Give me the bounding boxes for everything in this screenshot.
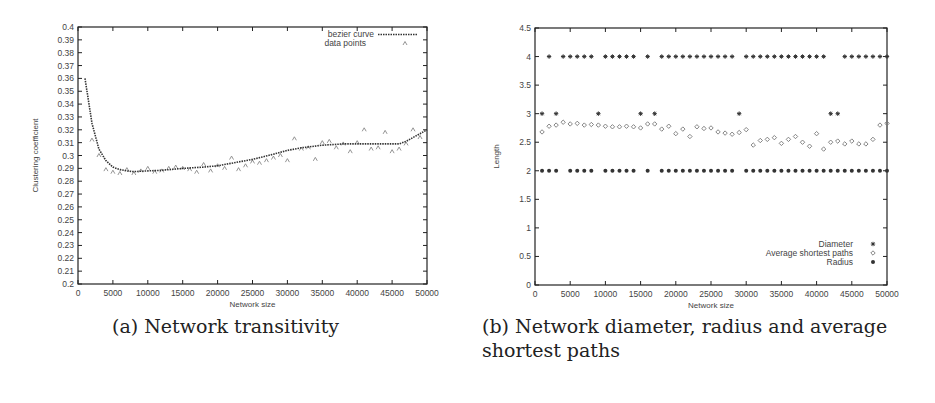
y-tick-label: 0.28 [57, 176, 74, 186]
y-tick-label: 0.37 [57, 61, 74, 71]
x-tick-label: 0 [533, 289, 538, 299]
x-axis-title: Network size [230, 300, 276, 309]
x-tick-label: 10000 [594, 289, 618, 299]
y-tick-label: 0.23 [57, 240, 74, 250]
panel-network-diameter: 00.511.522.533.544.505000100001500020000… [468, 0, 935, 403]
series-radius [540, 169, 889, 173]
legend-label-radius: Radius [827, 257, 853, 267]
x-tick-label: 15000 [171, 288, 195, 298]
x-tick-label: 5000 [561, 289, 580, 299]
x-tick-label: 30000 [734, 289, 758, 299]
y-tick-label: 3.5 [519, 80, 531, 90]
y-tick-label: 0.25 [57, 215, 74, 225]
y-tick-label: 3 [526, 109, 531, 119]
axes: 0.20.210.220.230.240.250.260.270.280.290… [31, 22, 439, 309]
y-tick-label: 0.21 [57, 266, 74, 276]
y-tick-label: 0.34 [57, 99, 74, 109]
y-axis-title: Clustering coefficient [31, 118, 40, 193]
y-tick-label: 0.33 [57, 112, 74, 122]
x-tick-label: 35000 [310, 288, 334, 298]
y-tick-label: 0.39 [57, 35, 74, 45]
y-tick-label: 0.4 [62, 22, 74, 32]
x-tick-label: 20000 [206, 288, 230, 298]
y-tick-label: 0.36 [57, 73, 74, 83]
x-tick-label: 5000 [103, 288, 122, 298]
x-tick-label: 10000 [136, 288, 160, 298]
y-tick-label: 1.5 [519, 194, 531, 204]
y-tick-label: 0.5 [519, 251, 531, 261]
x-tick-label: 45000 [840, 289, 864, 299]
y-tick-label: 0.35 [57, 86, 74, 96]
series-average-shortest-paths [540, 120, 889, 151]
x-tick-label: 40000 [805, 289, 829, 299]
y-tick-label: 0 [526, 280, 531, 290]
x-tick-label: 50000 [415, 288, 439, 298]
x-tick-label: 25000 [241, 288, 265, 298]
caption-network-diameter: (b) Network diameter, radius and average… [482, 314, 932, 362]
y-tick-label: 0.31 [57, 138, 74, 148]
y-axis-title: Length [492, 144, 501, 168]
x-tick-label: 35000 [770, 289, 794, 299]
y-tick-label: 0.38 [57, 48, 74, 58]
plot-frame [78, 27, 427, 284]
legend-label-data-points: data points [324, 38, 366, 48]
y-tick-label: 0.29 [57, 163, 74, 173]
x-axis-title: Network size [688, 301, 734, 310]
chart-network-transitivity: 0.20.210.220.230.240.250.260.270.280.290… [0, 0, 468, 310]
y-tick-label: 4.5 [519, 23, 531, 33]
x-tick-label: 30000 [276, 288, 300, 298]
y-tick-label: 0.27 [57, 189, 74, 199]
y-tick-label: 0.2 [62, 279, 74, 289]
x-tick-label: 50000 [875, 289, 899, 299]
y-tick-label: 0.3 [62, 151, 74, 161]
caption-network-transitivity: (a) Network transitivity [112, 314, 412, 338]
series-data-points [90, 128, 422, 175]
y-tick-label: 0.24 [57, 228, 74, 238]
x-tick-label: 40000 [345, 288, 369, 298]
x-tick-label: 0 [76, 288, 81, 298]
legend: bezier curvedata points [324, 29, 417, 48]
panel-network-transitivity: 0.20.210.220.230.240.250.260.270.280.290… [0, 0, 468, 403]
chart-network-diameter-radius-asp: 00.511.522.533.544.505000100001500020000… [468, 0, 935, 310]
y-tick-label: 2.5 [519, 137, 531, 147]
y-tick-label: 4 [526, 52, 531, 62]
legend: DiameterAverage shortest pathsRadius [766, 239, 875, 267]
x-tick-label: 45000 [380, 288, 404, 298]
y-tick-label: 1 [526, 223, 531, 233]
y-tick-label: 0.22 [57, 253, 74, 263]
series-diameter [540, 54, 889, 116]
x-tick-label: 25000 [699, 289, 723, 299]
series-bezier-curve [85, 78, 427, 171]
y-tick-label: 0.26 [57, 202, 74, 212]
x-tick-label: 20000 [664, 289, 688, 299]
x-tick-label: 15000 [629, 289, 653, 299]
y-tick-label: 2 [526, 166, 531, 176]
y-tick-label: 0.32 [57, 125, 74, 135]
